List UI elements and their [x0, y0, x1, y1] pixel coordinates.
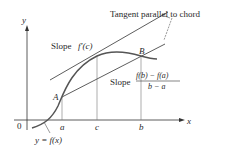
origin-label: 0: [17, 121, 22, 131]
annotation-label: Tangent parallel to chord: [110, 9, 201, 19]
function-curve: [32, 52, 157, 128]
tangent-slope-prefix: Slope: [51, 41, 72, 51]
chord-slope-denominator: b − a: [148, 82, 165, 91]
point-a-label: A: [52, 92, 59, 102]
point-b-label: B: [139, 46, 145, 56]
x-axis-arrow-icon: [179, 118, 185, 122]
y-axis-label: y: [21, 15, 26, 25]
chord-slope-prefix: Slope: [110, 77, 131, 87]
tick-b-label: b: [139, 122, 144, 132]
curve-label: y = f(x): [34, 135, 62, 145]
y-axis-arrow-icon: [25, 25, 29, 31]
leader-line-chord: [164, 18, 172, 40]
x-axis-label: x: [186, 116, 191, 126]
leader-line-curve: [44, 122, 50, 133]
mvt-diagram: Tangent parallel to chord y x 0 a c b A …: [0, 0, 228, 155]
tangent-slope-math: f′(c): [78, 41, 92, 51]
chord-slope-numerator: f(b) − f(a): [136, 71, 169, 80]
tick-a-label: a: [60, 122, 65, 132]
tick-c-label: c: [95, 122, 99, 132]
